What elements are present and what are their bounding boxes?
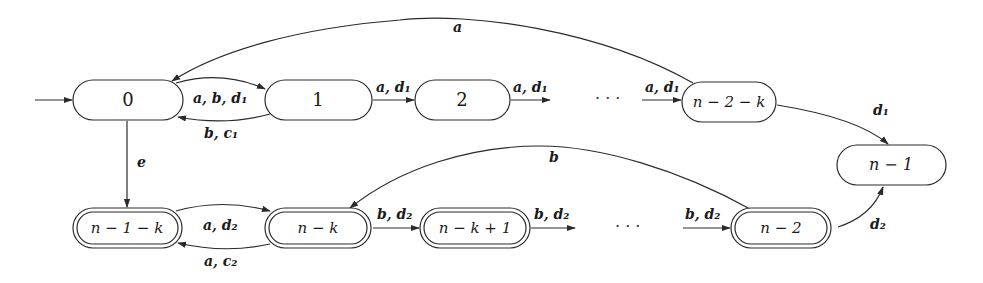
state-n-k-label: n − k	[298, 219, 339, 237]
state-n-2-k: n − 2 − k	[682, 82, 776, 122]
edge-n1k-to-nk	[176, 205, 270, 212]
edge-label-n2-to-nk: b	[549, 149, 559, 165]
edge-label-1-to-2: a, d₁	[376, 79, 411, 95]
edge-label-1-to-0: b, c₁	[204, 125, 238, 141]
state-n-k-plus-1-label: n − k + 1	[439, 219, 512, 237]
edge-label-n2k-to-0: a	[453, 19, 462, 35]
state-n-1-label: n − 1	[869, 155, 913, 174]
edge-label-n1k-to-nk: a, d₂	[203, 217, 238, 233]
state-n-k-plus-1: n − k + 1	[420, 208, 530, 248]
edge-1-to-0	[178, 114, 270, 121]
state-n-1: n − 1	[837, 145, 946, 185]
edge-label-nk-to-nk1: b, d₂	[377, 206, 412, 222]
state-2: 2	[415, 80, 510, 120]
state-1: 1	[265, 80, 372, 120]
edge-label-n2-to-n1: d₂	[870, 216, 886, 232]
edge-n2k-to-n1	[777, 105, 888, 144]
edge-nk-to-n1k	[178, 243, 270, 249]
state-n-k: n − k	[265, 208, 371, 248]
state-0: 0	[73, 80, 183, 120]
edge-label-nk-to-n1k: a, c₂	[204, 253, 237, 269]
ellipsis-top: · · ·	[595, 89, 620, 108]
state-n-1-k: n − 1 − k	[73, 208, 182, 248]
state-1-label: 1	[312, 89, 323, 110]
edge-n2k-to-0	[172, 18, 693, 83]
ellipsis-bottom: · · ·	[615, 217, 640, 236]
state-n-2-k-label: n − 2 − k	[693, 93, 766, 111]
state-n-1-k-label: n − 1 − k	[91, 219, 164, 237]
state-0-label: 0	[122, 89, 133, 110]
edge-label-in-n2: b, d₂	[685, 206, 720, 222]
state-n-2: n − 2	[731, 208, 831, 248]
state-n-2-label: n − 2	[760, 219, 801, 237]
automaton-diagram: a, b, d₁ b, c₁ a, d₁ a, d₁ · · · a, d₁ a…	[0, 0, 983, 283]
edge-label-in-n2k: a, d₁	[645, 79, 680, 95]
edge-0-to-1	[176, 78, 265, 89]
state-2-label: 2	[456, 89, 467, 110]
edge-label-2-out: a, d₁	[513, 79, 548, 95]
edge-label-0-to-n1k: e	[137, 154, 146, 170]
edge-label-nk1-out: b, d₂	[534, 206, 569, 222]
edge-label-n2k-to-n1: d₁	[873, 102, 889, 118]
edge-label-0-to-1: a, b, d₁	[193, 90, 247, 106]
